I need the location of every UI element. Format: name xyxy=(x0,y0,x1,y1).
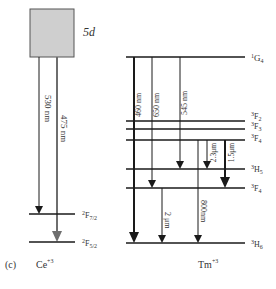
label-3F3: 3F3 xyxy=(251,121,261,132)
label-3H6: 3H6 xyxy=(251,239,263,250)
label-650nm: 650 nm xyxy=(152,92,161,117)
arrowhead-800nm xyxy=(194,235,202,243)
arrowhead-475nm xyxy=(52,231,62,242)
label-475nm: 475 nm xyxy=(59,115,69,142)
label-3H5: 3H5 xyxy=(251,164,263,175)
arrowhead-460nm xyxy=(129,232,139,243)
label-460nm: 460 nm xyxy=(134,92,143,117)
tm-diagram: 1G4 3F2 3F3 3F4 3H5 3F4 3H6 460 nm 650 n… xyxy=(126,53,264,250)
arrowhead-1-5um xyxy=(220,177,230,188)
label-1-5um: 1.5μm xyxy=(227,143,236,162)
arrowhead-650nm xyxy=(148,180,156,188)
label-1G4: 1G4 xyxy=(251,53,264,64)
ce-diagram: 5d 530 nm 475 nm 2F7/2 2F5/2 xyxy=(29,9,97,249)
5d-band-label: 5d xyxy=(83,25,96,39)
ce-ion-label: Ce+3 xyxy=(36,258,54,270)
label-2F5-2: 2F5/2 xyxy=(82,238,97,249)
energy-level-diagram: 5d 530 nm 475 nm 2F7/2 2F5/2 1G4 3F2 3F3 xyxy=(0,0,276,289)
label-3F4-lower: 3F4 xyxy=(251,183,261,194)
arrowhead-2um xyxy=(158,235,166,243)
label-3F4-upper: 3F4 xyxy=(251,133,261,144)
label-2-3um: 2.3μm xyxy=(209,143,218,162)
label-530nm: 530 nm xyxy=(43,95,53,122)
arrowhead-530nm xyxy=(35,206,43,214)
panel-label: (c) xyxy=(5,259,16,271)
label-545nm: 545 nm xyxy=(180,90,189,115)
arrowhead-545nm xyxy=(176,161,184,169)
label-2F7-2: 2F7/2 xyxy=(82,210,97,221)
label-800nm: 800nm xyxy=(199,200,208,223)
label-2um: 2 μm xyxy=(163,212,172,229)
5d-band-box xyxy=(30,9,74,57)
tm-ion-label: Tm+3 xyxy=(198,258,218,270)
